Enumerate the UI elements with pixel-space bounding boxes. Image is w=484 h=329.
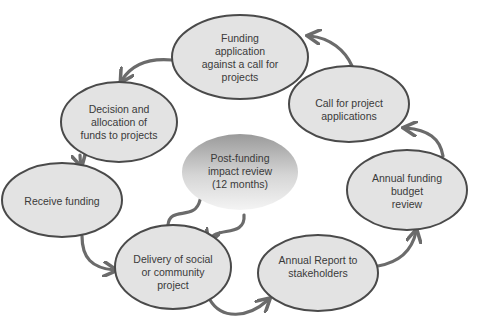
node-label-line: application: [215, 45, 265, 57]
arrow-receive-to-delivery: [82, 236, 114, 270]
funding-cycle-diagram: Funding application against a call for p…: [0, 0, 484, 329]
node-label-line: (12 months): [212, 178, 268, 190]
node-post-funding-review: Post-funding impact review (12 months): [182, 134, 298, 210]
node-label-line: funds to projects: [80, 129, 157, 141]
node-label-line: impact review: [208, 165, 273, 177]
node-label-line: Call for project: [315, 97, 383, 109]
node-call-for-projects: Call for project applications: [289, 66, 409, 142]
node-label-line: budget: [391, 185, 423, 197]
node-label-line: applications: [321, 110, 376, 122]
node-label-line: against a call for: [202, 58, 279, 70]
node-label-line: Decision and: [89, 103, 150, 115]
node-label-line: review: [392, 198, 423, 210]
arrow-review-to-delivery: [210, 215, 244, 240]
arrow-funding-application-to-decision: [122, 60, 172, 80]
node-delivery: Delivery of social or community project: [115, 225, 231, 309]
node-label-line: project: [157, 279, 189, 291]
arrow-delivery-to-report: [210, 300, 268, 314]
node-label-line: stakeholders: [288, 267, 348, 279]
node-label-line: Delivery of social: [133, 253, 212, 265]
node-decision: Decision and allocation of funds to proj…: [61, 82, 177, 162]
node-label-line: Funding: [221, 32, 259, 44]
node-receive-funding: Receive funding: [2, 163, 122, 237]
node-label-line: Annual funding: [372, 172, 442, 184]
arrow-decision-to-receive: [80, 155, 81, 164]
node-label-line: Post-funding: [211, 152, 270, 164]
node-annual-budget-review: Annual funding budget review: [347, 150, 467, 230]
node-label-line: Receive funding: [24, 195, 99, 207]
node-label-line: projects: [222, 71, 259, 83]
node-label-line: or community: [141, 266, 205, 278]
node-label-line: Annual Report to: [279, 254, 358, 266]
arrow-report-to-budget: [378, 232, 416, 266]
node-funding-application: Funding application against a call for p…: [172, 15, 308, 99]
arrow-call-to-funding-application: [310, 36, 352, 66]
node-annual-report: Annual Report to stakeholders: [258, 235, 378, 311]
node-label-line: allocation of: [91, 116, 147, 128]
